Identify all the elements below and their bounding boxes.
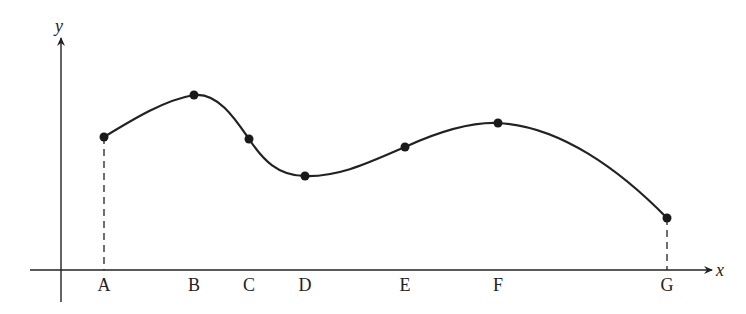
point-label-e: E (400, 275, 411, 295)
point-a (100, 133, 109, 142)
point-c (245, 135, 254, 144)
function-curve (104, 95, 667, 218)
point-g (663, 214, 672, 223)
y-axis-label: y (53, 16, 63, 36)
function-curve-diagram: x y ABCDEFG (0, 0, 746, 314)
point-d (301, 172, 310, 181)
point-label-c: C (243, 275, 255, 295)
point-f (494, 119, 503, 128)
point-label-g: G (661, 275, 674, 295)
point-label-f: F (493, 275, 503, 295)
dashed-drop-lines (104, 137, 667, 270)
point-b (190, 91, 199, 100)
point-label-a: A (98, 275, 111, 295)
point-e (401, 143, 410, 152)
point-label-d: D (299, 275, 312, 295)
x-axis-label: x (715, 260, 724, 280)
point-labels: ABCDEFG (98, 275, 674, 295)
point-label-b: B (188, 275, 200, 295)
